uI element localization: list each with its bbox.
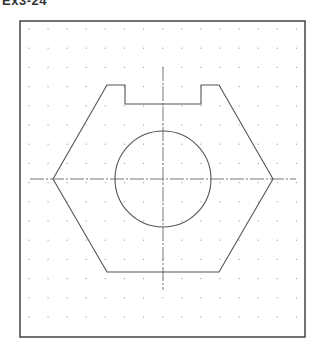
grid-dot <box>124 144 125 145</box>
grid-dot <box>239 201 240 202</box>
grid-dot <box>239 220 240 221</box>
grid-dot <box>105 201 106 202</box>
grid-dot <box>28 48 29 49</box>
grid-dot <box>258 278 259 279</box>
grid-dot <box>143 67 144 68</box>
grid-dot <box>67 220 68 221</box>
grid-dot <box>239 259 240 260</box>
grid-dot <box>258 259 259 260</box>
grid-dot <box>48 144 49 145</box>
grid-dot <box>239 182 240 183</box>
grid-dot <box>28 124 29 125</box>
grid-dot <box>48 297 49 298</box>
grid-dot <box>143 259 144 260</box>
grid-dot <box>105 220 106 221</box>
grid-dot <box>219 259 220 260</box>
grid-dot <box>296 278 297 279</box>
grid-dot <box>239 105 240 106</box>
grid-dot <box>296 240 297 241</box>
grid-dot <box>86 240 87 241</box>
grid-dot <box>258 28 259 29</box>
grid-dot <box>67 240 68 241</box>
grid-dot <box>258 48 259 49</box>
grid-dot <box>277 105 278 106</box>
grid-dot <box>200 201 201 202</box>
grid-dot <box>105 163 106 164</box>
grid-dot <box>86 182 87 183</box>
grid-dot <box>219 240 220 241</box>
grid-dot <box>219 220 220 221</box>
grid-dot <box>239 67 240 68</box>
grid-dot <box>219 316 220 317</box>
grid-dot <box>200 124 201 125</box>
grid-dot <box>200 278 201 279</box>
grid-dot <box>181 297 182 298</box>
grid-dot <box>105 297 106 298</box>
grid-dot <box>277 259 278 260</box>
grid-dot <box>181 28 182 29</box>
grid-dot <box>67 182 68 183</box>
grid-dot <box>162 316 163 317</box>
grid-dot <box>143 297 144 298</box>
grid-dot <box>219 105 220 106</box>
grid-dot <box>181 124 182 125</box>
grid-dot <box>277 220 278 221</box>
grid-dot <box>143 316 144 317</box>
grid-dot <box>219 124 220 125</box>
grid-dot <box>277 28 278 29</box>
grid-dot <box>67 28 68 29</box>
grid-dot <box>162 28 163 29</box>
grid-dot <box>258 67 259 68</box>
grid-dot <box>277 201 278 202</box>
grid-dot <box>181 67 182 68</box>
grid-dot <box>124 48 125 49</box>
grid-dot <box>181 48 182 49</box>
grid-dot <box>124 278 125 279</box>
grid-dot <box>200 259 201 260</box>
grid-dot <box>143 220 144 221</box>
grid-dot <box>296 220 297 221</box>
grid-dot <box>86 297 87 298</box>
grid-dot <box>28 297 29 298</box>
grid-dot <box>105 67 106 68</box>
grid-dot <box>143 86 144 87</box>
grid-dot <box>181 259 182 260</box>
grid-dot <box>86 316 87 317</box>
grid-dot <box>219 28 220 29</box>
grid-dot <box>239 316 240 317</box>
grid-dot <box>67 278 68 279</box>
grid-dot <box>143 105 144 106</box>
grid-dot <box>239 48 240 49</box>
grid-dot <box>296 105 297 106</box>
grid-dot <box>258 182 259 183</box>
grid-dot <box>48 316 49 317</box>
grid-dot <box>277 278 278 279</box>
grid-dot <box>67 67 68 68</box>
grid-dot <box>124 201 125 202</box>
grid-dot <box>200 67 201 68</box>
grid-dot <box>48 28 49 29</box>
grid-dot <box>28 28 29 29</box>
grid-dot <box>67 105 68 106</box>
grid-dot <box>296 316 297 317</box>
grid-dot <box>48 278 49 279</box>
grid-dot <box>143 144 144 145</box>
grid-dot <box>143 182 144 183</box>
grid-dot <box>48 163 49 164</box>
grid-dot <box>105 182 106 183</box>
grid-dot <box>296 124 297 125</box>
grid-dot <box>48 240 49 241</box>
grid-dot <box>181 163 182 164</box>
grid-dot <box>239 86 240 87</box>
grid-dot <box>86 67 87 68</box>
grid-dot <box>277 144 278 145</box>
grid-dot <box>219 67 220 68</box>
grid-dot <box>48 201 49 202</box>
grid-dot <box>181 182 182 183</box>
grid-dot <box>296 201 297 202</box>
grid-dot <box>239 28 240 29</box>
grid-dot <box>124 316 125 317</box>
grid-dot <box>277 124 278 125</box>
grid-dot <box>86 220 87 221</box>
grid-dot <box>48 220 49 221</box>
